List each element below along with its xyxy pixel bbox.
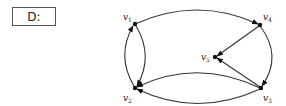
- vertex-v3: [259, 86, 263, 90]
- vertex-v4: [258, 23, 262, 27]
- vertex-v5: [213, 55, 217, 59]
- vertex-label-v1: v1: [123, 12, 132, 23]
- vertex-label-v3: v3: [263, 93, 272, 104]
- edge-v2-v1: [125, 26, 134, 86]
- edge-v1-v4: [135, 10, 258, 24]
- edge-v1-v2: [136, 26, 145, 86]
- vertex-v2: [133, 86, 137, 90]
- directed-graph-diagram: v1 v2 v3 v4 v5: [0, 0, 286, 106]
- vertex-label-v2: v2: [123, 93, 132, 104]
- edge-v3-v5: [217, 58, 260, 87]
- edge-v4-v3: [260, 26, 272, 86]
- vertex-label-v5: v5: [201, 52, 210, 63]
- vertex-v1: [133, 22, 137, 26]
- edge-v3-v2-lower: [137, 89, 260, 104]
- edge-v4-v5: [217, 26, 259, 56]
- vertex-label-v4: v4: [263, 12, 272, 23]
